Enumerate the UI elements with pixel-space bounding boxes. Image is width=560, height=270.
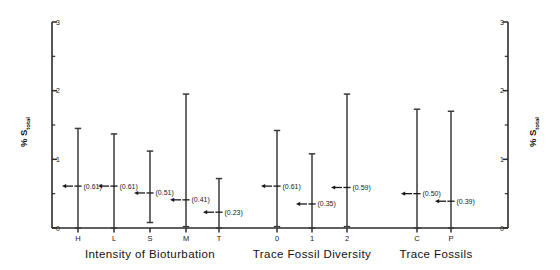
group-title: Trace Fossils: [399, 248, 472, 260]
mean-arrow-head-icon: [261, 184, 265, 188]
y-tick-label: 1: [500, 156, 504, 163]
mean-arrow-head-icon: [62, 184, 66, 188]
mean-arrow-head-icon: [170, 198, 174, 202]
mean-value-label: (0.35): [318, 200, 336, 208]
mean-arrow-head-icon: [296, 202, 300, 206]
bioturbation-range-chart: 01230123% Stotal% Stotal(0.61)H(0.61)L(0…: [0, 0, 560, 270]
x-category-label: H: [75, 234, 80, 243]
x-category-label: L: [112, 234, 116, 243]
x-category-label: P: [448, 234, 453, 243]
x-category-label: S: [147, 234, 152, 243]
data-point-range: (0.35)1: [296, 154, 336, 243]
mean-value-label: (0.50): [423, 190, 441, 198]
x-category-label: 2: [345, 234, 349, 243]
group-title: Trace Fossil Diversity: [253, 248, 371, 260]
y-tick-label: 3: [500, 19, 504, 26]
series-group: (0.61)H(0.61)L(0.51)S(0.41)M(0.23)TInten…: [62, 94, 243, 260]
y-axis-title-text: % Stotal: [527, 117, 540, 147]
group-title: Intensity of Bioturbation: [85, 248, 215, 260]
y-axis-title-text: % Stotal: [18, 117, 31, 147]
mean-arrow-head-icon: [331, 185, 335, 189]
right-y-axis-title: % Stotal: [527, 117, 540, 147]
data-point-range: (0.50)C: [401, 109, 441, 243]
left-y-axis: 0123: [52, 19, 60, 232]
mean-arrow-head-icon: [134, 191, 138, 195]
x-category-label: 0: [275, 234, 279, 243]
data-point-range: (0.23)T: [203, 179, 243, 243]
series-group: (0.50)C(0.39)PTrace Fossils: [399, 109, 474, 260]
data-point-range: (0.59)2: [331, 94, 371, 243]
mean-arrow-head-icon: [435, 199, 439, 203]
x-category-label: 1: [310, 234, 314, 243]
data-point-range: (0.61)H: [62, 128, 102, 243]
data-point-range: (0.39)P: [435, 111, 475, 243]
x-category-label: C: [414, 234, 420, 243]
mean-value-label: (0.23): [225, 209, 243, 217]
x-category-label: M: [183, 234, 189, 243]
y-tick-label: 2: [500, 87, 504, 94]
mean-arrow-head-icon: [401, 192, 405, 196]
mean-arrow-head-icon: [203, 210, 207, 214]
y-tick-label: 2: [56, 87, 60, 94]
left-y-axis-title: % Stotal: [18, 117, 31, 147]
y-tick-label: 1: [56, 156, 60, 163]
mean-value-label: (0.51): [156, 189, 174, 197]
y-tick-label: 3: [56, 19, 60, 26]
mean-value-label: (0.61): [283, 183, 301, 191]
mean-value-label: (0.41): [192, 196, 210, 204]
y-tick-label: 0: [56, 225, 60, 232]
data-point-range: (0.51)S: [134, 151, 174, 243]
data-point-range: (0.61)L: [98, 134, 138, 243]
series-group: (0.61)0(0.35)1(0.59)2Trace Fossil Divers…: [253, 94, 371, 260]
mean-value-label: (0.61): [120, 183, 138, 191]
data-point-range: (0.61)0: [261, 130, 301, 243]
mean-value-label: (0.59): [353, 184, 371, 192]
mean-value-label: (0.39): [457, 198, 475, 206]
right-y-axis: 0123: [500, 19, 508, 232]
x-category-label: T: [217, 234, 222, 243]
y-tick-label: 0: [500, 225, 504, 232]
data-point-range: (0.41)M: [170, 94, 210, 243]
